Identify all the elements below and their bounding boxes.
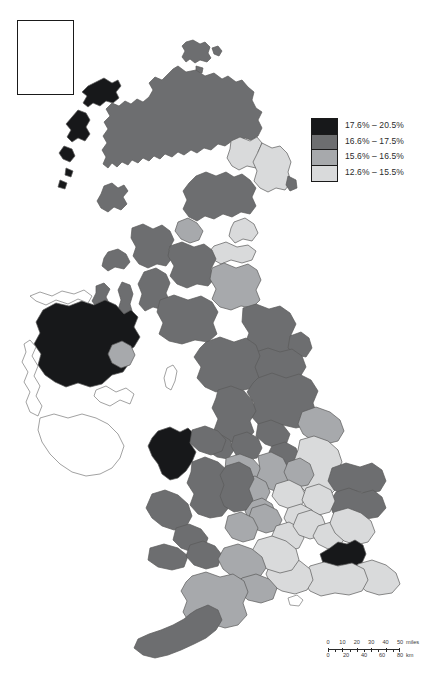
scale-tick-miles-30: 30	[368, 640, 374, 646]
region-shropshire-herefordshire[interactable]	[220, 462, 254, 512]
scale-tick-km-60: 60	[379, 653, 385, 659]
region-lothian[interactable]	[209, 242, 256, 264]
region-argyll-bute[interactable]	[131, 224, 174, 268]
legend-label-2: 15.6% – 16.5%	[345, 149, 404, 165]
scalebar-km-ticks: 0 20 40 60 80 km	[328, 653, 426, 660]
region-mull[interactable]	[102, 249, 130, 271]
scale-unit-miles: miles	[406, 640, 419, 646]
scale-tick-miles-0: 0	[326, 640, 329, 646]
region-isle-of-man	[164, 365, 177, 390]
region-isle-of-wight	[288, 595, 303, 606]
region-ireland-outline-lower	[38, 414, 124, 476]
legend: 17.6% – 20.5% 16.6% – 17.5% 15.6% – 16.5…	[311, 118, 404, 182]
region-aberdeen-city[interactable]	[286, 176, 297, 191]
region-perth-angus[interactable]	[183, 172, 256, 221]
legend-labels: 17.6% – 20.5% 16.6% – 17.5% 15.6% – 16.5…	[345, 118, 404, 180]
legend-label-1: 16.6% – 17.5%	[345, 134, 404, 150]
region-aberdeenshire[interactable]	[253, 143, 291, 192]
scale-tick-miles-40: 40	[382, 640, 388, 646]
scale-tick-km-40: 40	[361, 653, 367, 659]
region-ceredigion-pembrokeshire[interactable]	[146, 490, 192, 530]
scale-tick-miles-20: 20	[354, 640, 360, 646]
scale-tick-km-80: 80	[397, 653, 403, 659]
region-norfolk[interactable]	[328, 463, 386, 495]
region-fife[interactable]	[229, 218, 258, 243]
region-ireland-east-coast	[94, 386, 134, 406]
region-stirling[interactable]	[175, 218, 203, 243]
region-dumfries-galloway[interactable]	[157, 295, 218, 344]
region-anglesey-gwynedd[interactable]	[148, 427, 196, 480]
scale-tick-km-0: 0	[326, 653, 329, 659]
uk-choropleth-map[interactable]: .rg { stroke: #5a5a5a; stroke-width: 0.7…	[0, 0, 439, 685]
legend-label-3: 12.6% – 15.5%	[345, 165, 404, 181]
legend-swatch-0	[312, 119, 337, 135]
region-cornwall[interactable]	[134, 605, 222, 658]
legend-label-0: 17.6% – 20.5%	[345, 118, 404, 134]
scalebar-miles-ticks: 0 10 20 30 40 50 miles	[328, 640, 426, 647]
scalebar-tick	[357, 648, 358, 652]
region-scottish-borders[interactable]	[210, 263, 261, 310]
region-orkney[interactable]	[182, 40, 222, 73]
legend-swatch-3	[312, 166, 337, 182]
scale-tick-miles-50: 50	[397, 640, 403, 646]
region-glasgow-lanarkshire[interactable]	[168, 242, 216, 288]
legend-swatch-1	[312, 135, 337, 151]
legend-swatches	[311, 118, 338, 182]
region-cardiff-newport[interactable]	[186, 541, 222, 569]
map-figure: .rg { stroke: #5a5a5a; stroke-width: 0.7…	[0, 0, 439, 685]
region-cumbria[interactable]	[194, 337, 260, 392]
scale-tick-miles-10: 10	[339, 640, 345, 646]
scalebar-tick	[386, 648, 387, 652]
scalebar: 0 10 20 30 40 50 miles 0 20 40 60	[328, 640, 426, 660]
scalebar-tick	[371, 648, 372, 652]
shetland-inset-frame	[17, 20, 74, 95]
scale-unit-km: km	[406, 653, 413, 659]
legend-swatch-2	[312, 150, 337, 166]
scale-tick-km-20: 20	[343, 653, 349, 659]
region-skye[interactable]	[97, 183, 128, 212]
